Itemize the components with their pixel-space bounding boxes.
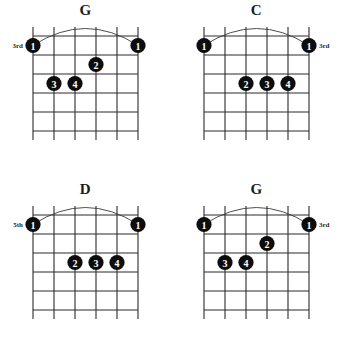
finger-dot: 2: [238, 76, 253, 91]
fret-position-label: 3rd: [0, 42, 23, 51]
dot-finger-number: 4: [244, 258, 249, 269]
dot-finger-number: 3: [94, 258, 99, 269]
finger-dot: 1: [196, 38, 211, 53]
chord-diagram-g-1: G112343rd: [0, 0, 171, 179]
fret-position-label: 3rd: [319, 221, 340, 230]
chord-chart-sheet: G112343rdC112343rdD112345thG112343rd: [0, 0, 342, 358]
dot-finger-number: 4: [286, 79, 291, 90]
dot-finger-number: 1: [307, 41, 312, 52]
finger-dot: 1: [301, 217, 316, 232]
dot-finger-number: 1: [202, 220, 207, 231]
dot-finger-number: 4: [115, 258, 120, 269]
finger-dot: 1: [301, 38, 316, 53]
dot-finger-number: 2: [265, 239, 270, 250]
finger-dot: 4: [280, 76, 295, 91]
fretboard-grid: 11234: [171, 0, 342, 179]
finger-dot: 2: [259, 236, 274, 251]
finger-dot: 1: [130, 38, 145, 53]
finger-dot: 2: [88, 57, 103, 72]
finger-dot: 3: [46, 76, 61, 91]
dot-finger-number: 1: [31, 220, 36, 231]
barre-arc: [33, 29, 138, 46]
dot-finger-number: 2: [73, 258, 78, 269]
dot-finger-number: 1: [202, 41, 207, 52]
fretboard-grid: 11234: [171, 179, 342, 358]
dot-finger-number: 1: [136, 220, 141, 231]
finger-dot: 1: [25, 38, 40, 53]
dot-finger-number: 3: [265, 79, 270, 90]
finger-dots: 11234: [196, 38, 316, 91]
fretboard-grid: 11234: [0, 179, 171, 358]
finger-dots: 11234: [196, 217, 316, 270]
fretboard-grid: 11234: [0, 0, 171, 179]
finger-dots: 11234: [25, 38, 145, 91]
dot-finger-number: 3: [52, 79, 57, 90]
chord-diagram-c-2: C112343rd: [171, 0, 342, 179]
dot-finger-number: 4: [73, 79, 78, 90]
finger-dot: 1: [196, 217, 211, 232]
dot-finger-number: 3: [223, 258, 228, 269]
finger-dot: 3: [217, 255, 232, 270]
dot-finger-number: 1: [136, 41, 141, 52]
finger-dot: 1: [130, 217, 145, 232]
dot-finger-number: 2: [244, 79, 249, 90]
finger-dots: 11234: [25, 217, 145, 270]
dot-finger-number: 2: [94, 60, 99, 71]
finger-dot: 4: [67, 76, 82, 91]
barre-arc: [204, 29, 309, 46]
barre-arc: [33, 208, 138, 225]
finger-dot: 4: [109, 255, 124, 270]
barre-arc: [204, 208, 309, 225]
finger-dot: 1: [25, 217, 40, 232]
fret-position-label: 3rd: [319, 42, 340, 51]
chord-diagram-d-3: D112345th: [0, 179, 171, 358]
dot-finger-number: 1: [307, 220, 312, 231]
finger-dot: 3: [88, 255, 103, 270]
finger-dot: 2: [67, 255, 82, 270]
fret-position-label: 5th: [0, 221, 23, 230]
finger-dot: 4: [238, 255, 253, 270]
dot-finger-number: 1: [31, 41, 36, 52]
finger-dot: 3: [259, 76, 274, 91]
chord-diagram-g-4: G112343rd: [171, 179, 342, 358]
